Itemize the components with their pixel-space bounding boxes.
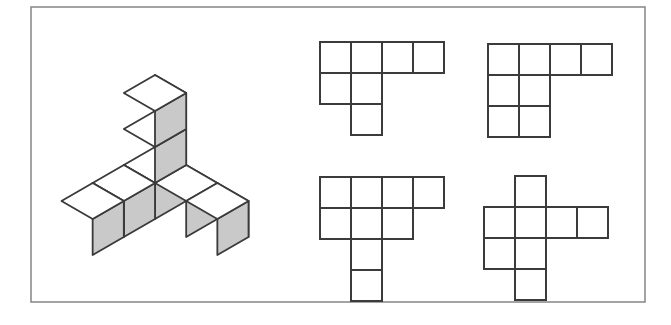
net-bottom-left-cell-7[interactable] (382, 208, 413, 239)
net-bottom-left-cell-2[interactable] (351, 177, 382, 208)
net-bottom-right-cell-3[interactable] (515, 207, 546, 238)
net-bottom-left-cell-5[interactable] (320, 208, 351, 239)
net-bottom-right-cell-8[interactable] (515, 269, 546, 300)
net-top-right-cell-1[interactable] (488, 44, 519, 75)
net-top-right-cell-2[interactable] (519, 44, 550, 75)
net-top-left-cell-2[interactable] (351, 42, 382, 73)
net-bottom-right-cell-7[interactable] (515, 238, 546, 269)
net-bottom-right-cell-4[interactable] (546, 207, 577, 238)
figure-root (0, 0, 671, 325)
net-top-right-cell-5[interactable] (488, 75, 519, 106)
net-bottom-left-cell-8[interactable] (351, 239, 382, 270)
net-bottom-left-cell-1[interactable] (320, 177, 351, 208)
net-top-right-cell-4[interactable] (581, 44, 612, 75)
net-bottom-right-cell-2[interactable] (484, 207, 515, 238)
net-top-left-cell-3[interactable] (382, 42, 413, 73)
net-top-right-cell-7[interactable] (488, 106, 519, 137)
net-bottom-left-cell-6[interactable] (351, 208, 382, 239)
net-top-left-cell-5[interactable] (320, 73, 351, 104)
net-top-right-cell-8[interactable] (519, 106, 550, 137)
net-bottom-right-cell-5[interactable] (577, 207, 608, 238)
net-top-left-cell-6[interactable] (351, 73, 382, 104)
figure-canvas (0, 0, 671, 325)
net-bottom-left-cell-3[interactable] (382, 177, 413, 208)
net-top-right-cell-3[interactable] (550, 44, 581, 75)
net-bottom-right-cell-6[interactable] (484, 238, 515, 269)
net-top-left-cell-7[interactable] (351, 104, 382, 135)
net-top-right-cell-6[interactable] (519, 75, 550, 106)
net-top-left-cell-4[interactable] (413, 42, 444, 73)
net-bottom-left-cell-9[interactable] (351, 270, 382, 301)
net-bottom-right-cell-1[interactable] (515, 176, 546, 207)
net-bottom-left-cell-4[interactable] (413, 177, 444, 208)
net-top-left-cell-1[interactable] (320, 42, 351, 73)
